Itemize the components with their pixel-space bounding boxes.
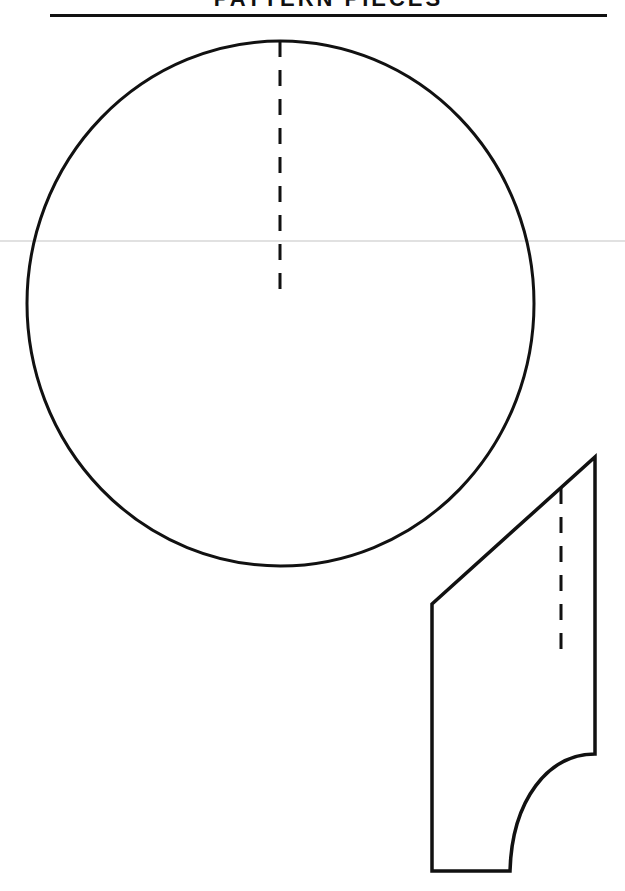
angled-piece-outline xyxy=(432,457,595,871)
pattern-drawing xyxy=(0,0,625,891)
circle-outline xyxy=(27,41,534,566)
angled-piece xyxy=(432,457,595,871)
pattern-sheet-page: PATTERN PIECES xyxy=(0,0,625,891)
circle-piece xyxy=(27,41,534,566)
